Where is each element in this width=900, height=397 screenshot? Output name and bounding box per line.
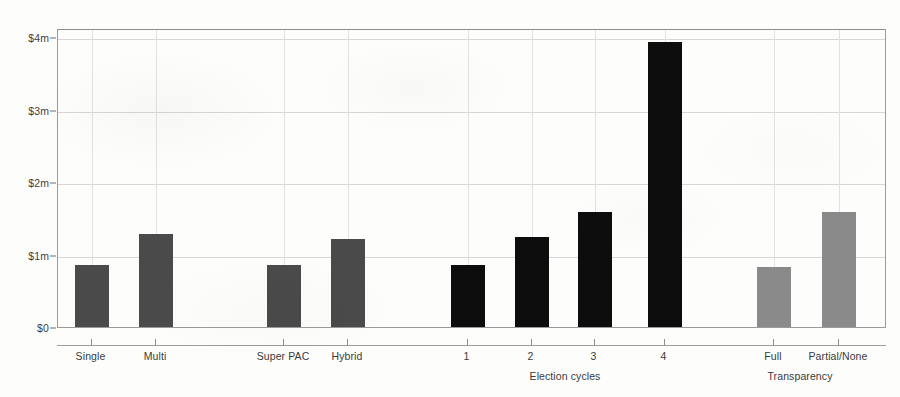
x-tick-label: 2 <box>528 350 534 362</box>
y-tick-label: $4m <box>28 32 49 44</box>
x-tick-label: Hybrid <box>332 350 363 362</box>
bar-chart: $0$1m$2m$3m$4m SingleMultiSuper PACHybri… <box>0 0 900 397</box>
bar-partial-none <box>822 212 856 327</box>
y-tick-label: $2m <box>28 177 49 189</box>
x-axis-line <box>57 345 886 346</box>
x-tick-mark <box>594 339 595 346</box>
x-tick-label: Super PAC <box>257 350 310 362</box>
x-tick-label: Single <box>76 350 106 362</box>
x-tick-mark <box>467 339 468 346</box>
y-axis: $0$1m$2m$3m$4m <box>0 0 49 397</box>
x-tick-mark <box>283 339 284 346</box>
y-tick-mark <box>50 183 56 184</box>
x-tick-label: Partial/None <box>809 350 868 362</box>
bar-3 <box>578 212 612 327</box>
x-tick-mark <box>664 339 665 346</box>
x-tick-mark <box>155 339 156 346</box>
y-tick-mark <box>50 328 56 329</box>
x-tick-mark <box>347 339 348 346</box>
x-tick-label: 4 <box>661 350 667 362</box>
gridline-horizontal <box>58 184 885 185</box>
gridline-horizontal <box>58 39 885 40</box>
gridline-horizontal <box>58 257 885 258</box>
bar-1 <box>451 265 485 327</box>
y-tick-mark <box>50 255 56 256</box>
bar-hybrid <box>331 239 365 327</box>
x-tick-mark <box>91 339 92 346</box>
x-tick-mark <box>838 339 839 346</box>
x-tick-label: 3 <box>591 350 597 362</box>
bar-full <box>757 267 791 327</box>
group-label-election-cycles: Election cycles <box>530 370 601 382</box>
bar-4 <box>648 42 682 327</box>
y-tick-mark <box>50 110 56 111</box>
bar-super-pac <box>267 265 301 327</box>
bar-multi <box>139 234 173 327</box>
x-tick-mark <box>531 339 532 346</box>
x-tick-mark <box>773 339 774 346</box>
x-tick-label: Full <box>764 350 781 362</box>
y-tick-mark <box>50 38 56 39</box>
y-tick-label: $3m <box>28 105 49 117</box>
plot-area <box>57 29 886 328</box>
gridline-horizontal <box>58 112 885 113</box>
bar-2 <box>515 237 549 327</box>
y-tick-label: $1m <box>28 250 49 262</box>
y-tick-label: $0 <box>37 322 49 334</box>
bar-single <box>75 265 109 327</box>
group-label-transparency: Transparency <box>767 370 832 382</box>
x-tick-label: Multi <box>144 350 167 362</box>
x-tick-label: 1 <box>464 350 470 362</box>
